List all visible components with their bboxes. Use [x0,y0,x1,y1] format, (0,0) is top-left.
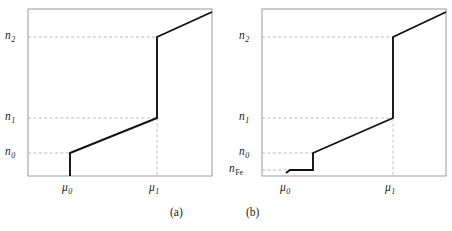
xtick-mu1-base: μ [385,181,391,193]
panel-a: n2 n1 n0 μ0 μ1 [0,0,226,231]
ytick-nFe-base: n [229,162,235,174]
xtick-mu0-sub: 0 [68,187,72,196]
xtick-mu0-base: μ [62,181,68,193]
plot-frame [28,9,212,176]
ytick-n2-sub: 2 [11,35,15,44]
panel-a-plot [0,0,226,231]
curve-n-of-mu [286,12,446,173]
xtick-label-mu1: μ1 [385,181,395,193]
ytick-n1-sub: 1 [245,116,249,125]
ytick-n0-base: n [5,145,11,157]
xtick-mu0-sub: 0 [286,187,290,196]
xtick-label-mu1: μ1 [149,181,159,193]
ytick-n1-base: n [5,110,11,122]
panel-a-caption: (a) [170,206,183,218]
curve-n-of-mu [70,12,212,176]
xtick-mu1-sub: 1 [155,187,159,196]
panel-b: n2 n1 n0 nFe μ0 μ1 [226,0,452,231]
xtick-mu0-base: μ [280,181,286,193]
plot-frame [262,9,446,176]
ytick-label-n2: n2 [5,29,15,41]
panel-b-plot [226,0,452,231]
xtick-mu1-base: μ [149,181,155,193]
ytick-label-n1: n1 [239,110,249,122]
ytick-label-n2: n2 [239,29,249,41]
figure-two-panel-chart: n2 n1 n0 μ0 μ1 [0,0,452,231]
ytick-n2-base: n [5,29,11,41]
xtick-mu1-sub: 1 [391,187,395,196]
ytick-n0-sub: 0 [245,151,249,160]
xtick-label-mu0: μ0 [62,181,72,193]
ytick-n2-base: n [239,29,245,41]
ytick-label-n1: n1 [5,110,15,122]
ytick-label-n0: n0 [5,145,15,157]
ytick-n1-sub: 1 [11,116,15,125]
ytick-label-n0: n0 [239,145,249,157]
ytick-label-nFe: nFe [229,162,243,174]
ytick-n0-sub: 0 [11,151,15,160]
panel-b-caption: (b) [246,206,259,218]
ytick-n2-sub: 2 [245,35,249,44]
ytick-nFe-sub: Fe [235,168,243,177]
xtick-label-mu0: μ0 [280,181,290,193]
ytick-n0-base: n [239,145,245,157]
ytick-n1-base: n [239,110,245,122]
